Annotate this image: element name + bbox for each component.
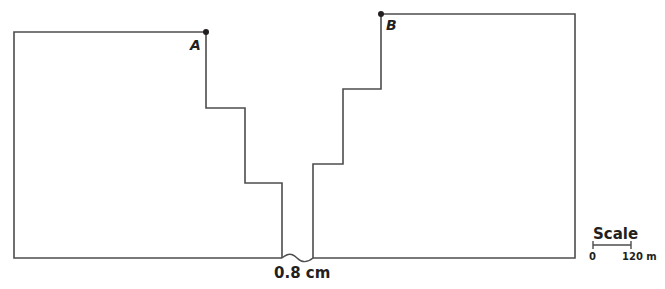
gap-break-line — [282, 254, 313, 262]
point-a-label: A — [189, 37, 201, 53]
scale-start-label: 0 — [589, 251, 596, 262]
gap-width-label: 0.8 cm — [274, 264, 330, 282]
scale-end-label: 120 m — [622, 251, 657, 262]
point-b-marker — [378, 11, 384, 17]
scale-title: Scale — [593, 225, 638, 243]
point-b-label: B — [386, 17, 397, 33]
right-plateau-outline — [313, 14, 575, 258]
point-a-marker — [203, 29, 209, 35]
canyon-diagram: A B 0.8 cm Scale 0 120 m — [0, 0, 665, 289]
left-plateau-outline — [14, 32, 282, 258]
